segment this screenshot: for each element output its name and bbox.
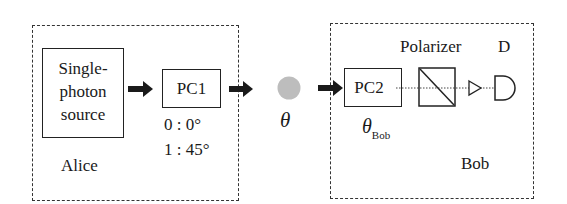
- photon-icon: [278, 77, 301, 100]
- arrow-channel-to-pc2: [318, 80, 343, 96]
- optics-graphics: [0, 0, 567, 204]
- beam-direction-triangle-icon: [469, 81, 481, 95]
- arrow-source-to-pc1: [128, 81, 153, 97]
- detector-icon: [495, 76, 515, 100]
- arrow-pc1-to-channel: [229, 81, 253, 97]
- polarizer-cube-icon: [419, 68, 455, 106]
